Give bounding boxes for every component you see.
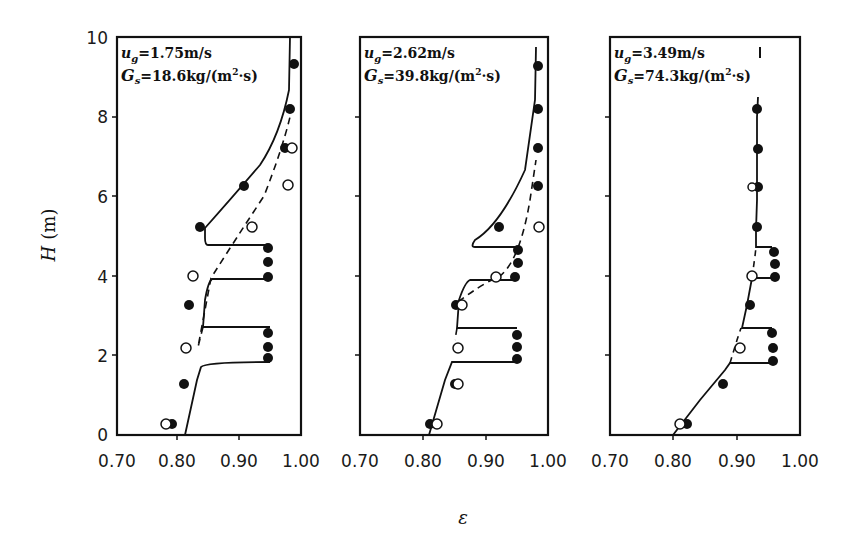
y-tick-label: 8 xyxy=(97,107,108,127)
y-tick-label: 2 xyxy=(97,346,108,366)
y-tick-label: 4 xyxy=(97,267,108,287)
y-axis: 10 8 6 4 2 0 H(m) xyxy=(38,28,108,445)
y-tick-label: 0 xyxy=(97,425,108,445)
svg-text:1.00: 1.00 xyxy=(529,451,567,471)
svg-text:0.80: 0.80 xyxy=(158,451,196,471)
panel-2-gs: Gs=39.8kg/(m2·s) xyxy=(364,66,501,86)
svg-text:H(m): H(m) xyxy=(38,209,59,263)
svg-text:1.00: 1.00 xyxy=(781,451,819,471)
svg-text:0.70: 0.70 xyxy=(98,451,136,471)
panel-1: ug=1.75m/s Gs=18.6kg/(m2·s) xyxy=(112,37,301,440)
y-tick-label: 6 xyxy=(97,187,108,207)
figure: 10 8 6 4 2 0 H(m) ug=1.75m/s Gs=18.6kg/(… xyxy=(0,0,856,537)
panel-1-ug: ug=1.75m/s xyxy=(121,45,212,64)
panel-3-gs: Gs=74.3kg/(m2·s) xyxy=(614,66,751,86)
panel-3-markers xyxy=(675,104,780,429)
y-axis-label: H(m) xyxy=(38,209,59,263)
panel-3-ug: ug=3.49m/s xyxy=(614,45,705,64)
svg-text:0.80: 0.80 xyxy=(404,451,442,471)
panel-2: ug=2.62m/s Gs=39.8kg/(m2·s) xyxy=(355,37,548,440)
svg-text:0.80: 0.80 xyxy=(654,451,692,471)
panel-1-gs: Gs=18.6kg/(m2·s) xyxy=(121,66,258,86)
x-axis-ticks: 0.70 0.80 0.90 1.00 0.70 0.80 0.90 1.00 … xyxy=(98,451,819,471)
svg-text:0.90: 0.90 xyxy=(718,451,756,471)
svg-text:0.90: 0.90 xyxy=(467,451,505,471)
svg-text:0.70: 0.70 xyxy=(341,451,379,471)
panel-1-markers xyxy=(161,59,299,429)
svg-text:0.90: 0.90 xyxy=(220,451,258,471)
svg-text:0.70: 0.70 xyxy=(591,451,629,471)
panel-2-ug: ug=2.62m/s xyxy=(364,45,455,64)
x-axis-label: ε xyxy=(458,507,468,528)
y-tick-label: 10 xyxy=(86,28,108,48)
panel-2-markers xyxy=(425,61,544,429)
svg-text:1.00: 1.00 xyxy=(282,451,320,471)
panel-3: ug=3.49m/s Gs=74.3kg/(m2·s) xyxy=(605,37,800,440)
